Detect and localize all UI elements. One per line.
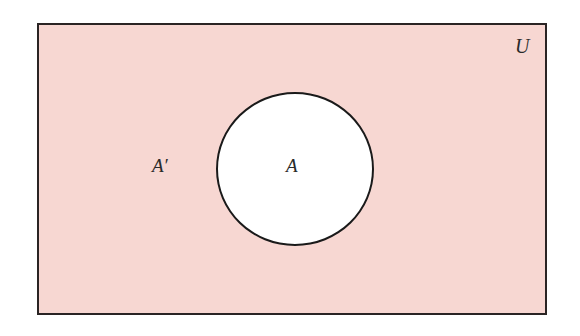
universe-label: U	[515, 36, 529, 56]
set-a-label: A	[286, 156, 298, 175]
complement-label: A′	[152, 156, 168, 175]
